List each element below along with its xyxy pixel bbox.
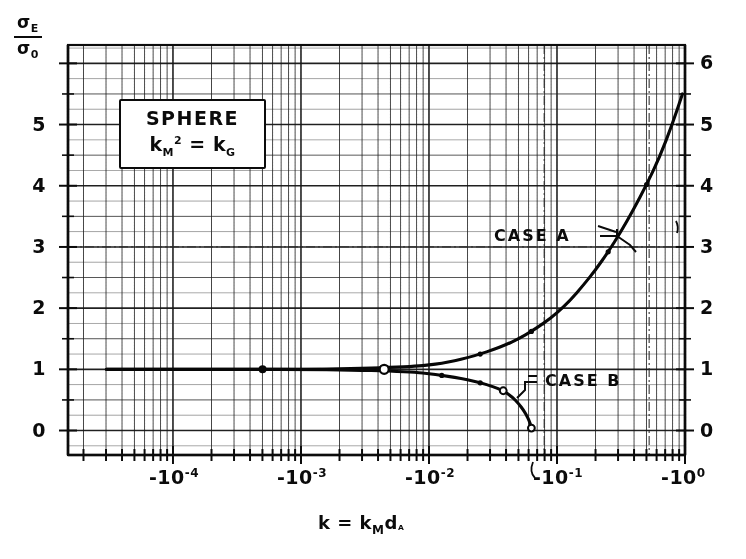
y-tick-label-3: 3	[20, 235, 46, 257]
y-axis-title-denominator: σ	[17, 38, 31, 58]
curve-point-marker	[478, 351, 483, 356]
title-box-sub-g: G	[226, 146, 236, 159]
x-tick-label-0: -10-4	[149, 466, 199, 488]
y-tick-label-0: 0	[700, 419, 714, 441]
title-box-sup-2: 2	[174, 134, 182, 147]
title-box: SPHERE kM2 = kG	[119, 99, 266, 169]
x-tick-label-3: -10-1	[533, 466, 583, 488]
y-tick-label-1: 1	[700, 357, 714, 379]
x-axis-title-d: d	[385, 512, 398, 533]
curve-point-marker	[439, 373, 444, 378]
title-box-k-g: k	[213, 133, 226, 155]
y-tick-label-4: 4	[20, 174, 46, 196]
curve-point-marker	[644, 182, 649, 187]
title-box-sub-m: M	[163, 146, 174, 159]
y-axis-title: σE σ0	[14, 14, 42, 61]
x-axis-title-sub-a: ᴬ	[398, 523, 404, 537]
title-box-k-m: k	[149, 133, 162, 155]
data-marker-circle	[380, 365, 389, 374]
chart-plot	[0, 0, 746, 559]
title-box-equals: =	[189, 133, 205, 155]
x-tick-label-1: -10-3	[277, 466, 327, 488]
x-axis-title-text: k = k	[318, 512, 372, 533]
data-marker-dot	[259, 365, 267, 373]
figure-canvas: σE σ0 SPHERE kM2 = kG CASE A CASE B k = …	[0, 0, 746, 559]
y-tick-label-3: 3	[700, 235, 714, 257]
case-a-label: CASE A	[494, 226, 571, 245]
curve-point-marker	[500, 387, 507, 394]
y-tick-label-6: 6	[700, 51, 714, 73]
title-box-line1: SPHERE	[131, 107, 254, 129]
y-tick-label-0: 0	[20, 419, 46, 441]
x-tick-label-4: -100	[661, 466, 706, 488]
curve-point-marker	[529, 329, 534, 334]
y-axis-title-numerator: σ	[17, 12, 31, 32]
curve-point-marker	[606, 249, 611, 254]
x-axis-title: k = kMdᴬ	[318, 512, 404, 537]
title-box-line2: kM2 = kG	[131, 133, 254, 159]
y-tick-label-1: 1	[20, 357, 46, 379]
y-tick-label-4: 4	[700, 174, 714, 196]
curve-point-marker	[528, 425, 535, 432]
case-b-label: CASE B	[545, 371, 621, 390]
y-tick-label-5: 5	[700, 113, 714, 135]
x-axis-title-sub-m: M	[372, 523, 384, 537]
y-tick-label-5: 5	[20, 113, 46, 135]
y-axis-title-denominator-sub: 0	[31, 48, 39, 61]
y-tick-label-2: 2	[20, 296, 46, 318]
x-tick-label-2: -10-2	[405, 466, 455, 488]
curve-point-marker	[478, 380, 483, 385]
y-tick-label-2: 2	[700, 296, 714, 318]
y-axis-title-numerator-sub: E	[31, 22, 39, 35]
